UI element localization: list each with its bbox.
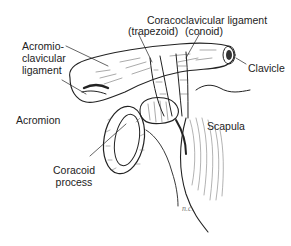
label-clavicle: Clavicle [248,62,285,74]
label-coracoid-process: Coracoid process [44,164,104,188]
label-scapula: Scapula [207,120,245,132]
shoulder-anatomy-figure: Coracoclavicular ligament (trapezoid) (c… [0,0,291,246]
artist-signature: n.c. [182,204,194,213]
label-trapezoid: (trapezoid) [128,25,178,37]
label-conoid: (conoid) [185,25,223,37]
label-acromioclavicular-ligament: Acromio- clavicular ligament [22,40,66,76]
label-acromion: Acromion [16,114,60,126]
